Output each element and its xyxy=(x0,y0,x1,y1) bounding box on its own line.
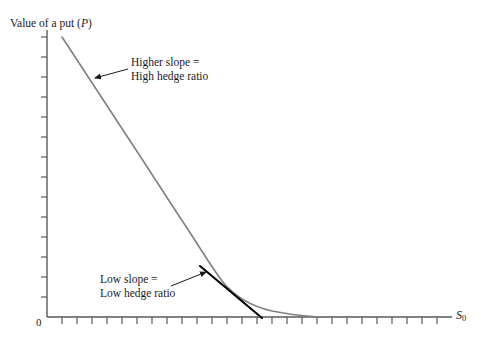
high-hedge-ratio-annotation: Higher slope =High hedge ratio xyxy=(131,55,208,83)
origin-label: 0 xyxy=(36,316,42,329)
x-axis-label: S0 xyxy=(456,308,466,323)
put-value-figure: Value of a put (P) S0 0 Higher slope =Hi… xyxy=(0,0,481,350)
high-slope-arrow xyxy=(95,69,128,78)
y-axis-label-variable: P xyxy=(81,17,88,29)
y-axis-ticks xyxy=(41,37,47,297)
y-axis-label-suffix: ) xyxy=(88,17,92,29)
y-axis-label: Value of a put (P) xyxy=(10,16,92,30)
high-annotation-line2: High hedge ratio xyxy=(131,70,208,82)
y-axis-label-prefix: Value of a put ( xyxy=(10,17,81,29)
high-annotation-line1: Higher slope = xyxy=(131,56,199,68)
low-annotation-line1: Low slope = xyxy=(100,273,158,285)
x-axis-ticks xyxy=(62,317,437,324)
tangent-line xyxy=(200,266,262,318)
plot-canvas xyxy=(0,0,481,350)
low-annotation-line2: Low hedge ratio xyxy=(100,287,175,299)
x-axis-label-subscript: 0 xyxy=(462,313,466,323)
low-hedge-ratio-annotation: Low slope =Low hedge ratio xyxy=(100,272,175,300)
low-slope-arrow xyxy=(171,272,206,286)
